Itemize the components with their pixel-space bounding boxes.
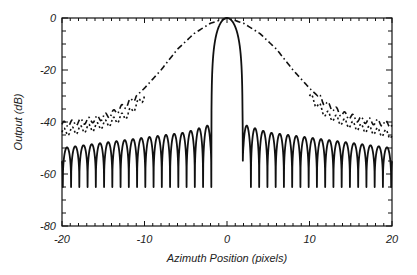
x-tick-label: -20: [54, 233, 71, 245]
x-tick-label: 20: [385, 233, 399, 245]
y-tick-label: -60: [40, 168, 57, 180]
x-axis-title: Azimuth Position (pixels): [166, 252, 288, 264]
plot-lines: [62, 18, 392, 187]
y-tick-label: -80: [40, 220, 57, 232]
x-tick-label: 10: [303, 233, 316, 245]
y-tick-label: -40: [40, 116, 57, 128]
y-tick-label: 0: [50, 12, 57, 24]
plot-frame: [62, 18, 392, 226]
chart: 0 -20 -40 -60 -80 -20 -10 0 10 20 Azimut…: [0, 0, 417, 275]
x-tick-label: -10: [137, 233, 154, 245]
y-tick-label: -20: [40, 64, 57, 76]
x-tick-label: 0: [224, 233, 231, 245]
axis-ticks: [62, 18, 392, 226]
y-axis-title: Output (dB): [12, 93, 24, 150]
